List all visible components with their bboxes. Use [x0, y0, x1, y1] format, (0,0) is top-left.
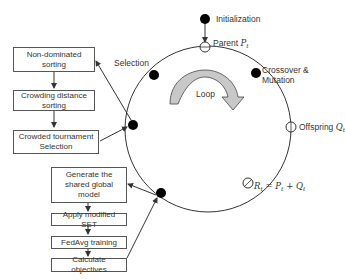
selection-node	[128, 120, 138, 130]
loop-label: Loop	[196, 89, 215, 99]
parent-label: Parent Pt	[213, 38, 249, 51]
crossover-label: Crossover & Mutation	[262, 65, 309, 85]
selection-to-nondominated	[96, 61, 131, 120]
calculate-objectives-box: Calculate objectives	[51, 258, 127, 272]
combined-equation: Rt = Pt + Qt	[254, 181, 305, 194]
global-model-box: Generate theshared global model	[51, 167, 127, 203]
offspring-label: Offspring Qt	[299, 122, 345, 135]
initialization-node	[200, 14, 210, 24]
crowded-tournament-box: Crowded tournamentSelection	[13, 130, 99, 154]
selection-label: Selection	[114, 58, 149, 68]
evaluation-node	[156, 188, 166, 198]
crossover-node	[251, 68, 261, 78]
crowding-distance-box: Crowding distancesorting	[13, 90, 95, 111]
selection-top-node	[149, 70, 159, 80]
modified-set-box: Apply modified SET	[51, 213, 127, 226]
initialization-label: Initialization	[216, 14, 260, 24]
fedavg-box: FedAvg training	[51, 236, 127, 249]
nondominated-sorting-box: Non-dominatedsorting	[13, 47, 95, 72]
